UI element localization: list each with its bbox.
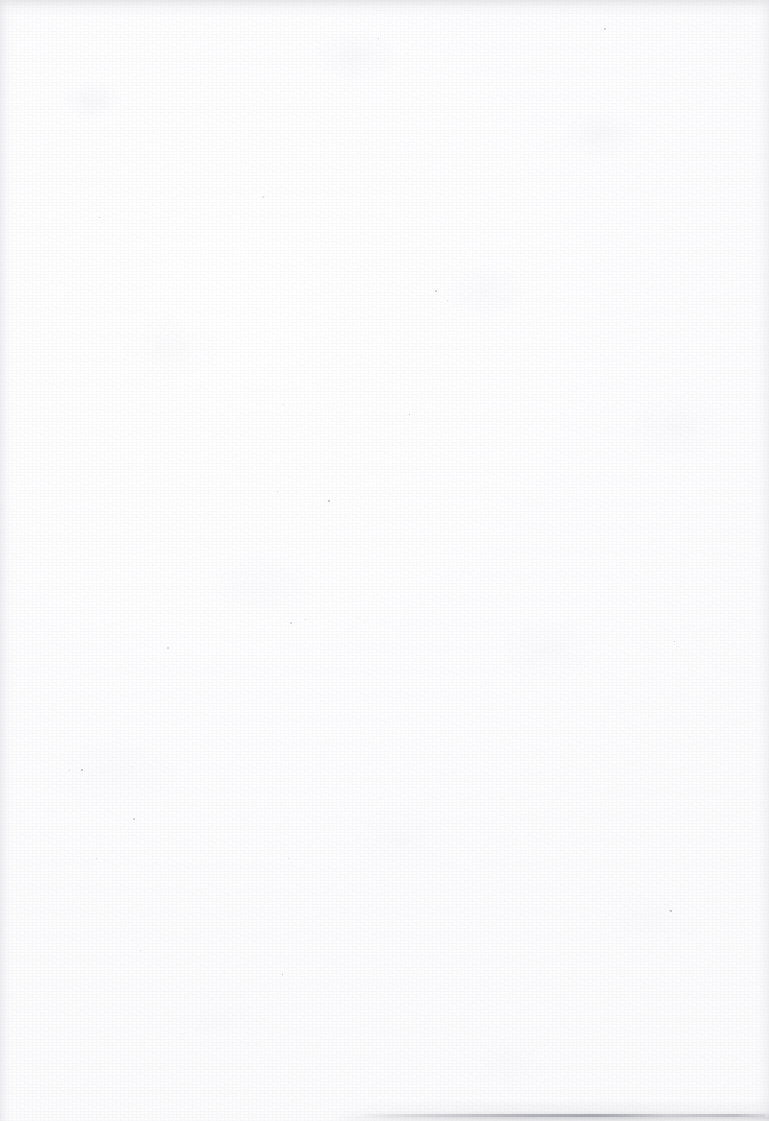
paper-mottle [0, 0, 769, 1121]
scanned-page: Blank scanned page. No text, headings, f… [0, 0, 769, 1121]
